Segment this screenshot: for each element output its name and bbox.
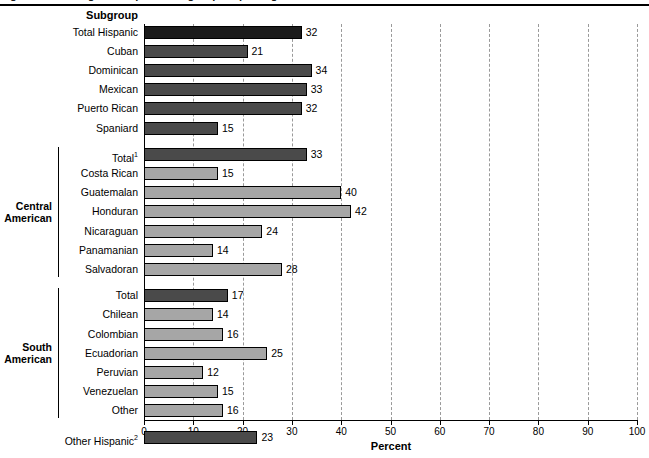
bar bbox=[144, 26, 302, 39]
bar bbox=[144, 244, 213, 257]
x-tick-20 bbox=[243, 420, 244, 425]
bar-value-label: 25 bbox=[271, 346, 283, 361]
bar-row: Honduran42 bbox=[0, 204, 649, 219]
x-tick-40 bbox=[341, 420, 342, 425]
bar-label: Other bbox=[0, 403, 138, 418]
bar-value-label: 23 bbox=[261, 430, 273, 445]
figure-title: Figure. Percentage of Hispanic subgroups… bbox=[0, 0, 649, 3]
bar-value-label: 28 bbox=[286, 262, 298, 277]
bar-label: Total1 bbox=[0, 147, 138, 166]
bar-label: Nicaraguan bbox=[0, 224, 138, 239]
bar-row: Total17 bbox=[0, 288, 649, 303]
bar-row: Colombian16 bbox=[0, 327, 649, 342]
bar-value-label: 21 bbox=[252, 44, 264, 59]
bar-row: Venezuelan15 bbox=[0, 384, 649, 399]
bar bbox=[144, 186, 341, 199]
bar bbox=[144, 167, 218, 180]
bar bbox=[144, 205, 351, 218]
bar-label: Puerto Rican bbox=[0, 101, 138, 116]
chart-root: Figure. Percentage of Hispanic subgroups… bbox=[0, 0, 649, 458]
bar-row: Mexican33 bbox=[0, 82, 649, 97]
bar-row: Other16 bbox=[0, 403, 649, 418]
title-rule bbox=[0, 4, 649, 6]
bar-value-label: 16 bbox=[227, 403, 239, 418]
bar-value-label: 14 bbox=[217, 243, 229, 258]
bar-label: Peruvian bbox=[0, 365, 138, 380]
bar bbox=[144, 225, 262, 238]
bar-value-label: 12 bbox=[207, 365, 219, 380]
bar bbox=[144, 404, 223, 417]
group-label-line1: Central bbox=[0, 200, 52, 212]
bar-label: Other Hispanic2 bbox=[0, 430, 138, 449]
bar-row: Total133 bbox=[0, 147, 649, 162]
bar bbox=[144, 289, 228, 302]
bar-row: Salvadoran28 bbox=[0, 262, 649, 277]
bar-label: Spaniard bbox=[0, 121, 138, 136]
bar-label: Costa Rican bbox=[0, 166, 138, 181]
bar bbox=[144, 385, 218, 398]
bar bbox=[144, 64, 312, 77]
bar bbox=[144, 328, 223, 341]
bar-row: Peruvian12 bbox=[0, 365, 649, 380]
bar-label: Colombian bbox=[0, 327, 138, 342]
bar-value-label: 33 bbox=[311, 82, 323, 97]
bar-label: Venezuelan bbox=[0, 384, 138, 399]
bar-value-label: 33 bbox=[311, 147, 323, 162]
x-tick-10 bbox=[193, 420, 194, 425]
bar bbox=[144, 102, 302, 115]
x-tick-100 bbox=[637, 420, 638, 425]
x-tick-80 bbox=[538, 420, 539, 425]
group-label-line2: American bbox=[0, 353, 52, 365]
bar-row: Spaniard15 bbox=[0, 121, 649, 136]
bar-label: Total Hispanic bbox=[0, 25, 138, 40]
bar bbox=[144, 83, 307, 96]
bar-value-label: 15 bbox=[222, 166, 234, 181]
group-label: CentralAmerican bbox=[0, 200, 52, 224]
bar-value-label: 15 bbox=[222, 384, 234, 399]
bar-value-label: 16 bbox=[227, 327, 239, 342]
bar-value-label: 17 bbox=[232, 288, 244, 303]
bar-value-label: 32 bbox=[306, 25, 318, 40]
x-tick-0 bbox=[144, 420, 145, 425]
bar-row: Chilean14 bbox=[0, 307, 649, 322]
bar-label: Guatemalan bbox=[0, 185, 138, 200]
bar-label: Mexican bbox=[0, 82, 138, 97]
group-label-line1: South bbox=[0, 341, 52, 353]
bar-label: Dominican bbox=[0, 63, 138, 78]
bar-value-label: 32 bbox=[306, 101, 318, 116]
bar-row: Nicaraguan24 bbox=[0, 224, 649, 239]
bar bbox=[144, 122, 218, 135]
bar-value-label: 15 bbox=[222, 121, 234, 136]
group-label-line2: American bbox=[0, 212, 52, 224]
x-tick-70 bbox=[489, 420, 490, 425]
bar-label: Cuban bbox=[0, 44, 138, 59]
group-bracket bbox=[58, 288, 59, 418]
bar-label: Salvadoran bbox=[0, 262, 138, 277]
bar-row: Puerto Rican32 bbox=[0, 101, 649, 116]
x-tick-30 bbox=[292, 420, 293, 425]
bar bbox=[144, 366, 203, 379]
bar-value-label: 34 bbox=[316, 63, 328, 78]
bar-row: Panamanian14 bbox=[0, 243, 649, 258]
footnote-marker: 2 bbox=[134, 434, 138, 441]
bar-row: Other Hispanic223 bbox=[0, 430, 649, 445]
bar-row: Ecuadorian25 bbox=[0, 346, 649, 361]
bar bbox=[144, 263, 282, 276]
x-tick-50 bbox=[391, 420, 392, 425]
bar-value-label: 14 bbox=[217, 307, 229, 322]
bar bbox=[144, 347, 267, 360]
bar-row: Dominican34 bbox=[0, 63, 649, 78]
bar-row: Cuban21 bbox=[0, 44, 649, 59]
bar-label: Panamanian bbox=[0, 243, 138, 258]
group-bracket bbox=[58, 147, 59, 277]
bar bbox=[144, 148, 307, 161]
bar-value-label: 40 bbox=[345, 185, 357, 200]
bar-label: Chilean bbox=[0, 307, 138, 322]
bar-value-label: 24 bbox=[266, 224, 278, 239]
bar-row: Total Hispanic32 bbox=[0, 25, 649, 40]
bar-value-label: 42 bbox=[355, 204, 367, 219]
bar-row: Guatemalan40 bbox=[0, 185, 649, 200]
bar bbox=[144, 45, 248, 58]
x-tick-90 bbox=[588, 420, 589, 425]
bar bbox=[144, 431, 257, 444]
